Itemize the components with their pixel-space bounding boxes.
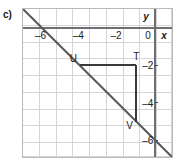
y-axis bbox=[154, 9, 156, 157]
part-label: c) bbox=[3, 10, 12, 20]
x-axis bbox=[23, 27, 172, 29]
point-label-u: U bbox=[70, 54, 77, 64]
y-tick-label--4: –4 bbox=[142, 99, 153, 109]
triangle-run-segment bbox=[80, 64, 137, 66]
point-label-t: T bbox=[133, 52, 139, 62]
y-tick--2 bbox=[155, 65, 158, 66]
x-tick-label--4: –4 bbox=[73, 31, 84, 41]
y-tick-label--6: –6 bbox=[142, 136, 153, 146]
x-tick-label-0: 0 bbox=[145, 31, 151, 41]
y-tick-label--2: –2 bbox=[142, 61, 153, 71]
y-axis-label: y bbox=[143, 12, 149, 22]
triangle-rise-segment bbox=[135, 65, 137, 121]
x-axis-label: x bbox=[161, 31, 167, 41]
point-label-v: V bbox=[126, 121, 133, 131]
x-tick-label--6: –6 bbox=[35, 31, 46, 41]
y-tick--4 bbox=[155, 102, 158, 103]
x-tick-label--2: –2 bbox=[110, 31, 121, 41]
coordinate-plane: U T V –6 –4 –2 0 –2 –4 –6 y x bbox=[22, 8, 173, 158]
